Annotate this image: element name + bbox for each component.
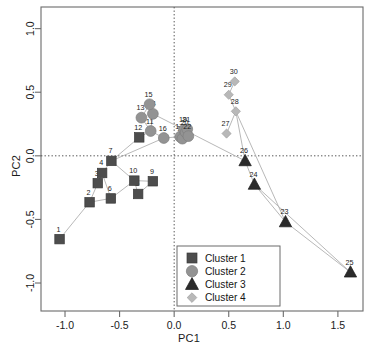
- plot-canvas: -1.0-0.50.00.51.01.5-1.0-0.50.00.51.0123…: [0, 0, 378, 352]
- x-axis-title: PC1: [0, 332, 378, 344]
- point-label: 16: [159, 124, 167, 133]
- legend: Cluster 1Cluster 2Cluster 3Cluster 4: [177, 246, 280, 306]
- point-label: 30: [230, 67, 238, 76]
- y-axis-title: PC2: [10, 136, 22, 196]
- point-label: 22: [183, 122, 191, 131]
- point-label: 9: [150, 167, 154, 176]
- marker-diamond: [231, 107, 240, 116]
- point-label: 26: [240, 146, 248, 155]
- marker-square: [97, 168, 107, 178]
- marker-circle: [147, 108, 158, 119]
- marker-triangle: [248, 178, 260, 189]
- connector-line: [236, 111, 286, 222]
- x-axis-tick-label: -0.5: [111, 319, 129, 331]
- x-axis-tick-label: 1.5: [331, 319, 346, 331]
- x-axis-tick-label: 1.0: [276, 319, 291, 331]
- y-axis-tick-label: 1.0: [24, 21, 36, 36]
- point-label: 6: [108, 184, 112, 193]
- legend-label: Cluster 1: [205, 253, 246, 264]
- x-axis-tick-label: -1.0: [56, 319, 74, 331]
- marker-square: [93, 178, 103, 188]
- point-label: 28: [231, 97, 239, 106]
- point-label: 4: [99, 158, 103, 167]
- marker-triangle: [344, 266, 356, 277]
- marker-circle: [183, 131, 194, 142]
- point-label: 27: [222, 119, 230, 128]
- x-axis-tick-label: 0.5: [221, 319, 236, 331]
- marker-circle: [158, 133, 169, 144]
- y-axis-tick-label: -1.0: [24, 274, 36, 292]
- scatter-plot-figure: -1.0-0.50.00.51.01.5-1.0-0.50.00.51.0123…: [0, 0, 378, 352]
- legend-marker-square: [187, 253, 197, 263]
- point-label: 24: [249, 170, 257, 179]
- point-label: 23: [281, 207, 289, 216]
- point-label: 7: [108, 146, 112, 155]
- x-axis-tick-label: 0.0: [167, 319, 182, 331]
- marker-square: [133, 189, 143, 199]
- marker-square: [148, 177, 158, 187]
- series-cluster-2: 1113141516171819202122: [136, 90, 194, 144]
- point-label: 15: [145, 90, 153, 99]
- marker-circle: [136, 112, 147, 123]
- marker-circle: [144, 99, 155, 110]
- marker-square: [134, 133, 144, 143]
- point-label: 13: [136, 103, 144, 112]
- marker-circle: [145, 126, 156, 137]
- marker-square: [107, 156, 117, 166]
- point-label: 12: [134, 123, 142, 132]
- marker-square: [130, 176, 140, 186]
- point-label: 10: [129, 166, 137, 175]
- legend-label: Cluster 2: [205, 266, 246, 277]
- point-label: 25: [345, 258, 353, 267]
- legend-label: Cluster 4: [205, 292, 246, 303]
- marker-square: [85, 197, 95, 207]
- legend-marker-circle: [186, 266, 197, 277]
- point-label: 2: [87, 188, 91, 197]
- y-axis-tick-label: 0.5: [24, 85, 36, 100]
- point-label: 1: [57, 225, 61, 234]
- y-axis-tick-label: -0.5: [24, 210, 36, 228]
- series-cluster-4: 27282930: [222, 67, 241, 138]
- y-axis-tick-label: 0.0: [24, 148, 36, 163]
- legend-label: Cluster 3: [205, 279, 246, 290]
- marker-square: [106, 194, 116, 204]
- marker-square: [55, 234, 65, 244]
- marker-diamond: [222, 129, 231, 138]
